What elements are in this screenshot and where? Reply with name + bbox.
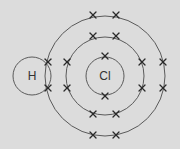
hcl-dot-and-cross-diagram: HCl bbox=[0, 0, 180, 149]
atom-label: H bbox=[28, 69, 37, 83]
atoms-layer: HCl bbox=[13, 57, 111, 95]
electron-cross-icon bbox=[45, 59, 51, 65]
electron-cross-icon bbox=[139, 85, 145, 91]
electron-cross-icon bbox=[102, 53, 108, 59]
atom-cl: Cl bbox=[99, 69, 110, 83]
electron-cross-icon bbox=[90, 33, 96, 39]
atom-label: Cl bbox=[99, 69, 110, 83]
electron-cross-icon bbox=[102, 93, 108, 99]
